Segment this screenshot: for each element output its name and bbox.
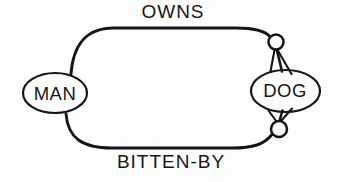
- owns-edge-label: OWNS: [141, 1, 204, 22]
- bitten-by-endpoint-circle: [271, 121, 287, 137]
- man-node-label: MAN: [34, 83, 77, 104]
- owns-endpoint-circle: [269, 35, 284, 50]
- bitten-by-edge-arc: [66, 114, 272, 148]
- owns-edge-arc: [71, 28, 270, 74]
- dog-node-label: DOG: [263, 80, 307, 101]
- semantic-network-diagram: MAN DOG OWNS BITTEN-BY: [0, 0, 337, 182]
- bitten-by-edge-label: BITTEN-BY: [117, 151, 225, 172]
- diagram-canvas: MAN DOG OWNS BITTEN-BY: [0, 0, 337, 182]
